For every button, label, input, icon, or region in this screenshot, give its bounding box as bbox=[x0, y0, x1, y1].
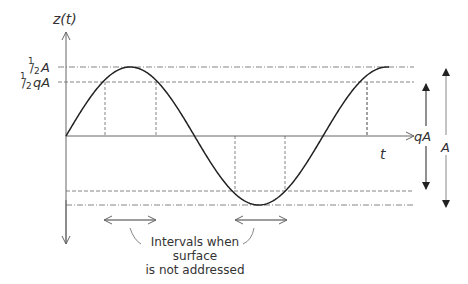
caption-line-1: Intervals when bbox=[151, 235, 239, 249]
svg-text:A: A bbox=[40, 60, 50, 75]
caption-line-3: is not addressed bbox=[145, 263, 244, 277]
sine-diagram: z(t) t 1 / 2 A 1 / 2 qA qA A Intervals w… bbox=[0, 0, 468, 284]
t-axis-label: t bbox=[380, 146, 386, 162]
qa-span-label: qA bbox=[414, 129, 431, 144]
svg-text:2: 2 bbox=[26, 81, 32, 91]
callout-curve-right bbox=[243, 228, 254, 244]
y-axis-label: z(t) bbox=[52, 11, 77, 27]
callout-curve-left bbox=[130, 228, 141, 244]
half-a-label: 1 / 2 A bbox=[28, 56, 50, 76]
a-span-label: A bbox=[440, 140, 450, 155]
svg-text:qA: qA bbox=[33, 75, 50, 90]
caption-line-2: surface bbox=[173, 249, 217, 263]
